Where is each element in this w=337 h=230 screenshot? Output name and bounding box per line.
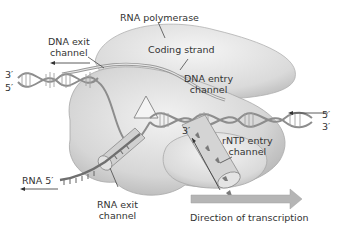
label-dna-exit-channel: DNA exit channel [48,36,90,58]
rna-polymerase-diagram: RNA polymerase Coding strand DNA exit ch… [0,0,337,230]
label-coding-strand: Coding strand [148,44,215,55]
diagram-artwork [0,0,337,230]
label-rntp-entry-channel: rNTP entry channel [222,135,273,157]
label-dna-entry-channel: DNA entry channel [184,73,233,95]
label-direction-of-transcription: Direction of transcription [190,212,309,223]
strand-end-right-bottom: 3′ [322,122,330,132]
label-rna-exit-channel: RNA exit channel [97,199,138,221]
label-rna-polymerase: RNA polymerase [120,12,199,23]
label-rna-5prime: RNA 5′ [22,175,53,186]
strand-end-left-bottom: 5′ [5,83,13,93]
strand-end-right-top: 5′ [322,110,330,120]
rna-3prime-end: 3′ [182,126,190,136]
strand-end-left-top: 3′ [5,70,13,80]
direction-of-transcription-arrow [191,189,302,209]
dna-helix-left [18,72,98,88]
